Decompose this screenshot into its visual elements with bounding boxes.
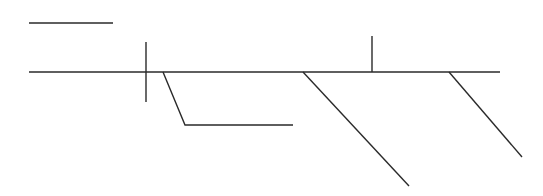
middle-diagonal-branch — [303, 72, 409, 186]
line-diagram — [0, 0, 543, 196]
diagram-canvas — [0, 0, 543, 196]
right-diagonal-branch — [449, 72, 522, 157]
left-bent-branch — [163, 72, 293, 125]
